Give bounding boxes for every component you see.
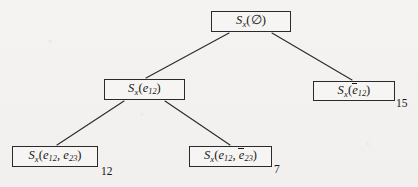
paren-close: ): [366, 83, 370, 97]
subscript-23: 23: [245, 155, 253, 164]
subscript-12: 12: [148, 88, 156, 97]
edge-e12-to-e12-e23bar: [165, 101, 230, 145]
tree-node-e12: Sx(e12): [104, 79, 185, 100]
paren-close: ): [157, 81, 161, 95]
leaf-weight-12: 12: [101, 166, 113, 178]
empty-set-symbol: ∅: [251, 13, 262, 27]
tree-node-e12-label: Sx(e12): [128, 82, 161, 97]
tree-node-e12-bar: Sx(e12): [313, 81, 395, 101]
edge-root-to-e12bar: [272, 33, 352, 80]
symbol-e-overline: e: [239, 149, 245, 162]
tree-node-e12-bar-label: Sx(e12): [338, 84, 371, 99]
symbol-e-overline: e: [352, 84, 358, 97]
tree-node-e12-e23: Sx(e12, e23): [12, 146, 98, 167]
leaf-weight-7: 7: [274, 164, 280, 176]
subscript-12: 12: [358, 89, 366, 98]
edge-root-to-e12: [146, 33, 229, 78]
subscript-12: 12: [49, 155, 57, 164]
tree-node-e12-e23-bar-label: Sx(e12, e23): [204, 149, 257, 164]
paren-close: ): [262, 13, 266, 27]
edge-e12-to-e12-e23: [57, 101, 124, 145]
paren-close: ): [253, 148, 257, 162]
paren-close: ): [77, 148, 81, 162]
tree-node-root-label: Sx(∅): [236, 14, 266, 28]
leaf-weight-15: 15: [396, 98, 408, 110]
tree-node-e12-e23-bar: Sx(e12, e23): [189, 146, 272, 167]
tree-node-e12-e23-label: Sx(e12, e23): [28, 149, 81, 164]
tree-diagram: Sx(∅) Sx(e12) Sx(e12) 15 Sx(e12, e23) 12…: [0, 0, 418, 187]
tree-node-root: Sx(∅): [211, 11, 291, 32]
